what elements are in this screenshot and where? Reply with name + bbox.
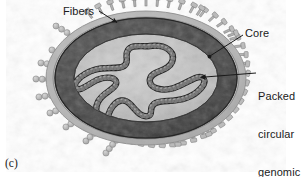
label-dna-line-3: genomic (258, 166, 300, 177)
panel-letter: (c) (5, 157, 18, 169)
virus-structure-figure: Fibers Core Packed circular genomic DNA … (0, 0, 302, 177)
label-dna-line-2: circular (258, 128, 300, 141)
label-core: Core (245, 27, 269, 40)
fiber (53, 23, 70, 36)
label-packed-circular-genomic-dna: Packed circular genomic DNA (258, 65, 300, 177)
label-fibers: Fibers (63, 5, 94, 18)
label-dna-line-1: Packed (258, 90, 300, 103)
